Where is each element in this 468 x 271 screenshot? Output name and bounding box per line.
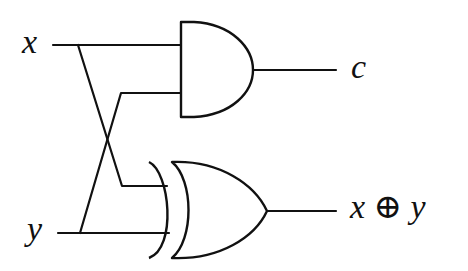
half-adder-circuit	[0, 0, 468, 271]
xor-gate	[172, 162, 267, 258]
xor-gate-back-curve	[149, 162, 167, 258]
xor-operator-symbol: ⊕	[374, 188, 403, 225]
wire-y-to-and	[80, 93, 181, 233]
output-label-sum: x ⊕ y	[350, 190, 426, 224]
sum-x: x	[350, 188, 365, 225]
sum-y: y	[411, 188, 426, 225]
output-label-carry: c	[351, 50, 366, 84]
and-gate	[181, 22, 253, 117]
input-label-x: x	[22, 25, 37, 59]
input-label-y: y	[27, 212, 42, 246]
